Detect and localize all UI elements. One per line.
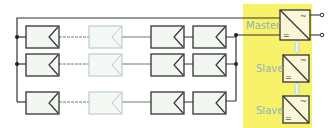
pv-panel <box>193 54 226 76</box>
string-3 <box>26 92 236 114</box>
slave-inverter-2: ~ = <box>283 96 309 123</box>
ac-terminal <box>320 33 324 37</box>
junction-dot <box>234 33 238 37</box>
dc-symbol: = <box>283 31 290 40</box>
junction-dot <box>15 62 19 66</box>
pv-panel <box>151 92 184 114</box>
slave-inverter-1: ~ = <box>283 55 309 82</box>
pv-panel-faded <box>89 54 122 76</box>
string-2 <box>26 54 236 76</box>
pv-panel-faded <box>89 92 122 114</box>
ac-symbol: ~ <box>300 56 307 65</box>
pv-panel <box>193 92 226 114</box>
master-label: Master <box>246 20 281 31</box>
slave-label-2: Slave <box>256 105 283 116</box>
slave-label-1: Slave <box>256 63 283 74</box>
pv-panel <box>26 54 59 76</box>
pv-panel-faded <box>89 26 122 48</box>
ac-symbol: ~ <box>300 97 307 106</box>
string-1 <box>26 26 236 48</box>
pv-panel <box>151 54 184 76</box>
pv-panel <box>151 26 184 48</box>
ac-symbol: ~ <box>300 12 307 21</box>
dc-symbol: = <box>285 73 292 82</box>
junction-dot <box>15 35 19 39</box>
dc-symbol: = <box>285 114 292 123</box>
ac-terminal <box>320 13 324 17</box>
master-inverter: ~ = <box>280 10 310 40</box>
pv-panel <box>26 26 59 48</box>
pv-panel <box>193 26 226 48</box>
pv-panel <box>26 92 59 114</box>
pv-diagram: ~ = Master ~ = Slave ~ = Slave <box>0 0 336 128</box>
